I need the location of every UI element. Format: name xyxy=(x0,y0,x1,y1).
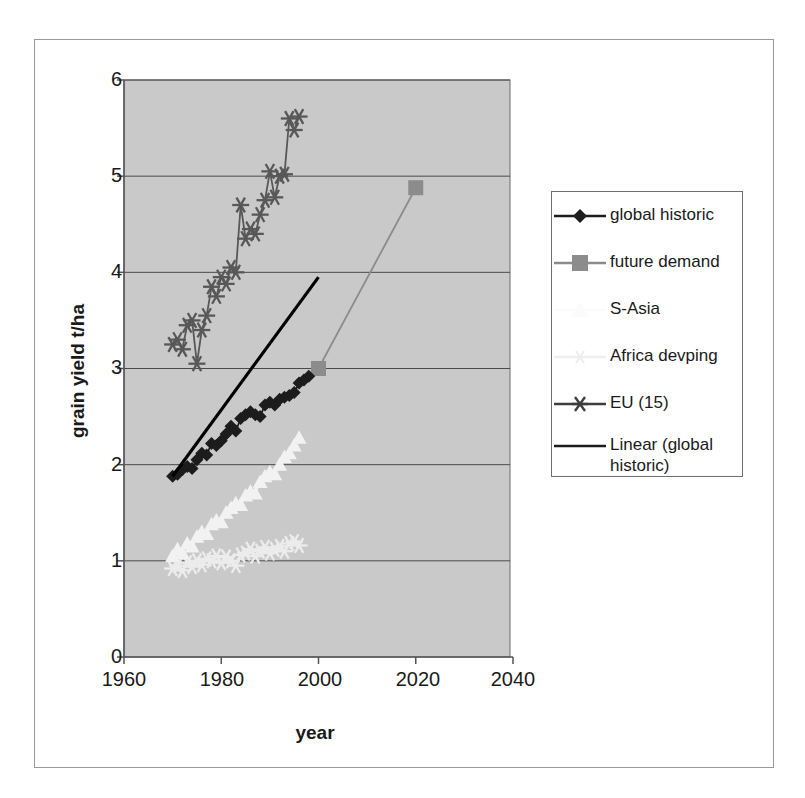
y-tick-2: 2 xyxy=(92,453,122,476)
legend-item-s-asia[interactable]: S-Asia xyxy=(552,298,744,338)
y-tick-0: 0 xyxy=(92,645,122,668)
legend-label-africa-devping: Africa devping xyxy=(608,345,718,366)
legend-item-future-demand[interactable]: future demand xyxy=(552,251,744,291)
x-tick-2000: 2000 xyxy=(275,668,365,691)
y-tick-1: 1 xyxy=(92,549,122,572)
legend-key-asterisk-white-icon xyxy=(552,346,608,368)
legend-label-eu-15: EU (15) xyxy=(608,392,669,413)
y-tick-4: 4 xyxy=(92,260,122,283)
x-tick-2020: 2020 xyxy=(373,668,463,691)
legend-label-s-asia: S-Asia xyxy=(608,298,660,319)
y-axis-title: grain yield t/ha xyxy=(67,241,89,501)
legend-label-linear-trend: Linear (global historic) xyxy=(608,434,738,476)
x-tick-1980: 1980 xyxy=(177,668,267,691)
chart-legend: global historic future demand S-Asia xyxy=(551,191,743,477)
legend-key-asterisk-dark-icon xyxy=(552,393,608,415)
x-tick-1960: 1960 xyxy=(79,668,169,691)
y-tick-6: 6 xyxy=(92,68,122,91)
legend-item-global-historic[interactable]: global historic xyxy=(552,204,744,244)
x-axis-title: year xyxy=(120,722,510,744)
legend-key-diamond-icon xyxy=(552,205,608,227)
legend-item-linear-trend[interactable]: Linear (global historic) xyxy=(552,434,744,488)
chart-figure: 6 5 4 3 2 1 0 1960 1980 2000 2020 2040 g… xyxy=(0,0,805,798)
y-tick-5: 5 xyxy=(92,164,122,187)
legend-label-global-historic: global historic xyxy=(608,204,714,225)
legend-item-africa-devping[interactable]: Africa devping xyxy=(552,345,744,385)
x-tick-2040: 2040 xyxy=(468,668,558,691)
legend-item-eu-15[interactable]: EU (15) xyxy=(552,392,744,432)
legend-label-future-demand: future demand xyxy=(608,251,720,272)
legend-key-square-icon xyxy=(552,252,608,274)
legend-key-triangle-icon xyxy=(552,299,608,321)
y-tick-3: 3 xyxy=(92,356,122,379)
legend-key-plain-line-icon xyxy=(552,435,608,457)
